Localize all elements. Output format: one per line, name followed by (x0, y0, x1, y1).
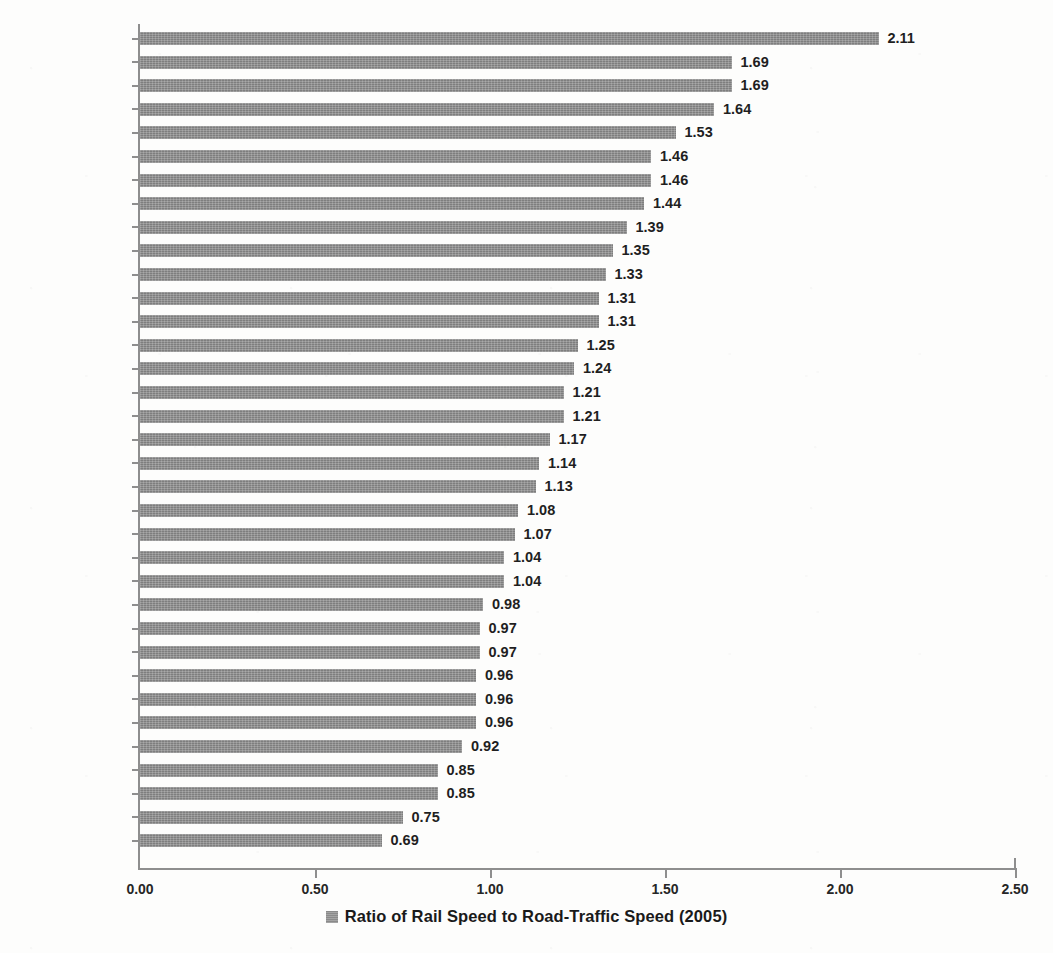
bar (140, 315, 599, 328)
x-axis-tick-label: 0.50 (301, 881, 328, 897)
bar (140, 56, 732, 69)
y-axis-tick (132, 321, 139, 323)
y-axis-tick (132, 651, 139, 653)
y-axis-tick (132, 533, 139, 535)
bar-value-label: 1.69 (741, 54, 769, 70)
bar (140, 834, 382, 847)
bar (140, 480, 536, 493)
bar-value-label: 1.04 (513, 573, 541, 589)
bar (140, 32, 879, 45)
y-axis-tick (132, 557, 139, 559)
x-axis-tick-label: 1.00 (476, 881, 503, 897)
y-axis-tick (132, 628, 139, 630)
legend-label: Ratio of Rail Speed to Road-Traffic Spee… (345, 907, 728, 926)
x-axis-line (138, 868, 1016, 870)
y-axis-tick (132, 108, 139, 110)
x-axis-tick (1015, 868, 1017, 878)
bar-value-label: 1.07 (524, 526, 552, 542)
bar (140, 410, 564, 423)
y-axis-tick (132, 38, 139, 40)
bar-value-label: 0.96 (485, 691, 513, 707)
bar (140, 103, 714, 116)
bar (140, 504, 518, 517)
bar-value-label: 1.31 (608, 313, 636, 329)
chart-page: Düsseldorf2.11Hong Kong1.69Bern1.69Hambu… (0, 0, 1053, 953)
chart-legend: Ratio of Rail Speed to Road-Traffic Spee… (0, 907, 1053, 926)
bar-value-label: 0.85 (447, 785, 475, 801)
bar (140, 716, 476, 729)
bar (140, 693, 476, 706)
bar (140, 221, 627, 234)
bar-value-label: 0.75 (412, 809, 440, 825)
bar (140, 787, 438, 800)
bar (140, 764, 438, 777)
y-axis-tick (132, 203, 139, 205)
bar (140, 575, 504, 588)
bar-value-label: 1.64 (723, 101, 751, 117)
bar (140, 598, 483, 611)
x-axis-tick-label: 2.00 (826, 881, 853, 897)
y-axis-tick (132, 675, 139, 677)
bar (140, 646, 480, 659)
bar (140, 811, 403, 824)
y-axis-tick (132, 793, 139, 795)
bar (140, 551, 504, 564)
y-axis-tick (132, 816, 139, 818)
bar-value-label: 0.69 (391, 832, 419, 848)
bar-value-label: 1.04 (513, 549, 541, 565)
bar (140, 126, 676, 139)
bar (140, 174, 651, 187)
x-axis-tick (490, 868, 492, 878)
bar (140, 292, 599, 305)
y-axis-tick (132, 179, 139, 181)
bar (140, 79, 732, 92)
bar-value-label: 1.25 (587, 337, 615, 353)
bar-value-label: 1.24 (583, 360, 611, 376)
y-axis-tick (132, 722, 139, 724)
y-axis-tick (132, 132, 139, 134)
bar (140, 197, 644, 210)
bar-value-label: 1.21 (573, 384, 601, 400)
y-axis-tick (132, 462, 139, 464)
y-axis-tick (132, 85, 139, 87)
bar-value-label: 1.21 (573, 408, 601, 424)
bar-value-label: 1.14 (548, 455, 576, 471)
bar-value-label: 1.31 (608, 290, 636, 306)
bar-value-label: 0.92 (471, 738, 499, 754)
bar-value-label: 2.11 (888, 30, 915, 46)
x-axis-tick-label: 0.00 (126, 881, 153, 897)
y-axis-tick (132, 415, 139, 417)
bar-chart: Düsseldorf2.11Hong Kong1.69Bern1.69Hambu… (0, 0, 1053, 953)
x-axis-tick-label: 1.50 (651, 881, 678, 897)
y-axis-tick (132, 368, 139, 370)
y-axis-tick (132, 746, 139, 748)
y-axis-tick (132, 61, 139, 63)
bar-value-label: 1.39 (636, 219, 664, 235)
y-axis-tick (132, 274, 139, 276)
y-axis-tick (132, 840, 139, 842)
bar-value-label: 1.44 (653, 195, 681, 211)
bar (140, 622, 480, 635)
legend-swatch-icon (326, 911, 338, 923)
x-axis-tick (315, 868, 317, 878)
bar-value-label: 0.97 (489, 644, 517, 660)
bar-value-label: 1.13 (545, 478, 573, 494)
bar-value-label: 1.69 (741, 77, 769, 93)
bar (140, 740, 462, 753)
x-axis-tick-label: 2.50 (1001, 881, 1028, 897)
y-axis-tick (132, 580, 139, 582)
bar-value-label: 0.85 (447, 762, 475, 778)
bar-value-label: 0.97 (489, 620, 517, 636)
y-axis-tick (132, 698, 139, 700)
y-axis-tick (132, 604, 139, 606)
bar-value-label: 0.96 (485, 667, 513, 683)
y-axis-tick (132, 439, 139, 441)
bar (140, 268, 606, 281)
x-axis-tick (665, 868, 667, 878)
bar (140, 457, 539, 470)
bar-value-label: 1.17 (559, 431, 587, 447)
bar (140, 244, 613, 257)
y-axis-tick (132, 769, 139, 771)
bar (140, 669, 476, 682)
y-axis-tick (132, 250, 139, 252)
